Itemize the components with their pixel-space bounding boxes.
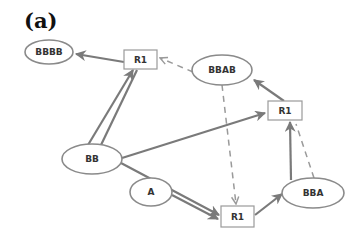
node-label: BBBB <box>35 47 63 57</box>
node-label: R1 <box>134 55 147 65</box>
panel-label: (a) <box>24 8 57 33</box>
node-label: BB <box>85 154 99 164</box>
node-a: A <box>130 178 172 206</box>
edge-bb-to-r1right <box>122 113 265 158</box>
edge-r1bottom-to-bba <box>255 194 282 215</box>
node-bbbb: BBBB <box>25 40 73 64</box>
edge-bb-to-r1top-a <box>88 70 133 145</box>
edge-bbab-to-r1bottom-dashed <box>222 85 236 204</box>
node-label: BBA <box>303 188 324 198</box>
node-label: BBAB <box>208 65 236 75</box>
node-r1-right: R1 <box>268 101 302 120</box>
edge-bba-to-r1right <box>290 122 291 180</box>
edge-r1right-to-bbab <box>254 80 284 101</box>
node-r1-top: R1 <box>124 50 157 69</box>
node-bbab: BBAB <box>192 55 252 85</box>
edge-a-to-r1bottom <box>172 195 218 219</box>
node-r1-bottom: R1 <box>221 206 254 227</box>
reaction-network-diagram: (a) BBBB R1 BBAB R1 BB A <box>0 0 359 233</box>
edges <box>76 54 314 219</box>
edge-bba-to-r1right-dashed <box>296 124 314 178</box>
edge-bbab-to-r1top-dashed <box>160 58 193 72</box>
edge-bb-to-r1top-b <box>101 70 137 145</box>
node-label: R1 <box>231 212 244 222</box>
node-label: A <box>148 187 155 197</box>
node-label: R1 <box>278 106 291 116</box>
node-bba: BBA <box>282 178 344 208</box>
edge-r1top-to-bbbb <box>76 54 124 62</box>
node-bb: BB <box>62 144 122 174</box>
